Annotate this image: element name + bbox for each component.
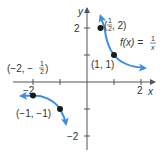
function-label-f: f(x) = bbox=[120, 37, 143, 48]
x-axis-label: x bbox=[147, 86, 154, 97]
label-neg2-close: ) bbox=[45, 63, 48, 74]
label-neg2-open: (−2, − bbox=[7, 63, 33, 74]
axes bbox=[13, 8, 155, 150]
function-label: f(x) = 1 x bbox=[120, 35, 156, 51]
point-1-1 bbox=[111, 52, 117, 58]
point-half-2 bbox=[98, 25, 104, 31]
reciprocal-function-graph: y x 2 −2 2 −2 ( 1 2 , 2) f(x) = 1 x (1, … bbox=[0, 0, 167, 160]
label-neg2-neghalf: (−2, − 1 2 ) bbox=[7, 60, 48, 75]
label-half-2-rest: , 2) bbox=[112, 20, 126, 31]
label-neg1-neg1: (−1, −1) bbox=[16, 108, 51, 119]
label-neg2-num: 1 bbox=[40, 60, 44, 67]
tick-label-y-2: 2 bbox=[74, 23, 80, 34]
point-neg1-neg1 bbox=[57, 106, 63, 112]
function-label-den: x bbox=[150, 44, 155, 51]
label-half-2: ( 1 2 , 2) bbox=[104, 17, 126, 32]
label-neg2-den: 2 bbox=[40, 68, 44, 75]
tick-label-x-2: 2 bbox=[137, 85, 143, 96]
tick-label-y-neg2: −2 bbox=[67, 131, 79, 142]
point-neg2-neghalf bbox=[30, 93, 36, 99]
function-label-num: 1 bbox=[151, 35, 155, 42]
y-axis-label: y bbox=[77, 6, 84, 17]
label-1-1: (1, 1) bbox=[91, 59, 114, 70]
